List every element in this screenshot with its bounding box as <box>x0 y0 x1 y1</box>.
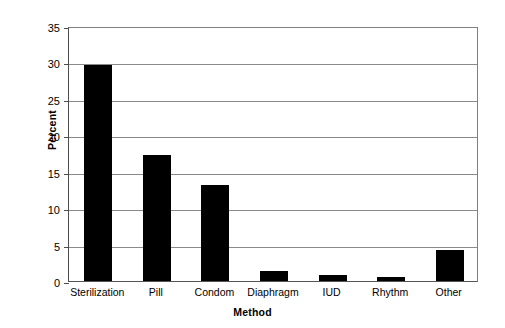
bar <box>143 155 171 281</box>
gridline <box>69 210 477 211</box>
gridline <box>69 174 477 175</box>
bar <box>377 277 405 281</box>
y-tick-mark <box>64 210 69 211</box>
y-tick-label: 5 <box>26 241 60 253</box>
y-tick-label: 25 <box>26 95 60 107</box>
y-tick-label: 35 <box>26 22 60 34</box>
x-tick-label: Other <box>399 286 499 298</box>
y-tick-label: 15 <box>26 168 60 180</box>
x-axis-title: Method <box>0 306 505 318</box>
bar <box>84 65 112 281</box>
y-tick-mark <box>64 247 69 248</box>
plot-area: 05101520253035 <box>68 27 478 282</box>
y-tick-label: 30 <box>26 58 60 70</box>
bar <box>260 271 288 281</box>
y-tick-mark <box>64 137 69 138</box>
bar <box>319 275 347 281</box>
bar <box>436 250 464 281</box>
y-tick-mark <box>64 28 69 29</box>
y-tick-mark <box>64 64 69 65</box>
bar <box>201 185 229 281</box>
y-tick-mark <box>64 174 69 175</box>
gridline <box>69 101 477 102</box>
gridline <box>69 247 477 248</box>
y-tick-label: 20 <box>26 131 60 143</box>
y-tick-mark <box>64 101 69 102</box>
bar-chart-figure: Percent 05101520253035 SterilizationPill… <box>0 0 505 328</box>
y-tick-mark <box>64 283 69 284</box>
gridline <box>69 137 477 138</box>
gridline <box>69 64 477 65</box>
y-tick-label: 10 <box>26 204 60 216</box>
